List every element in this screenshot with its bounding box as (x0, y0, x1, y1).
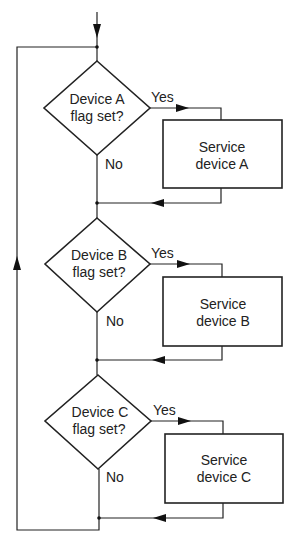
arrow-down-icon (93, 24, 101, 38)
no-label-c: No (106, 469, 124, 485)
yes-line-c (151, 421, 223, 434)
junction-dot (95, 201, 99, 205)
flowchart-canvas: Device A flag set? Service device A Devi… (0, 0, 298, 546)
arrow-right-icon (178, 417, 191, 425)
process-a-line1: Service (199, 139, 246, 155)
decision-a-line2: flag set? (71, 108, 124, 124)
yes-label-a: Yes (151, 89, 174, 105)
yes-line-b (150, 264, 222, 277)
arrow-left-icon (152, 356, 165, 364)
junction-dot (95, 358, 99, 362)
junction-dot (95, 45, 99, 49)
no-label-a: No (105, 156, 123, 172)
process-a-line2: device A (196, 156, 250, 172)
yes-label-c: Yes (153, 402, 176, 418)
process-b-line1: Service (200, 296, 247, 312)
no-label-b: No (106, 313, 124, 329)
arrow-right-icon (176, 104, 189, 112)
process-c-line2: device C (197, 469, 251, 485)
arrow-left-icon (153, 514, 166, 522)
arrow-up-icon (13, 256, 21, 270)
junction-dot (97, 516, 101, 520)
decision-a-line1: Device A (69, 91, 125, 107)
decision-b-line2: flag set? (73, 264, 126, 280)
decision-b-line1: Device B (71, 247, 127, 263)
process-b-line2: device B (196, 313, 250, 329)
yes-label-b: Yes (151, 245, 174, 261)
yes-line-a (150, 108, 221, 120)
process-c-line1: Service (201, 452, 248, 468)
arrow-right-icon (177, 260, 190, 268)
arrow-left-icon (151, 199, 164, 207)
decision-c-line1: Device C (72, 404, 129, 420)
decision-c-line2: flag set? (73, 421, 126, 437)
